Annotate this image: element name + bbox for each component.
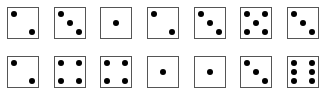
pip-icon (291, 78, 297, 84)
pip-icon (160, 69, 166, 75)
pip-icon (76, 60, 82, 66)
die-face-3 (54, 7, 86, 39)
pip-icon (244, 11, 250, 17)
die-face-3 (194, 7, 226, 39)
die-face-3 (240, 56, 272, 88)
pip-icon (76, 29, 82, 35)
die-face-3 (287, 7, 319, 39)
die-face-4 (100, 56, 132, 88)
pip-icon (198, 11, 204, 17)
pip-icon (309, 29, 315, 35)
pip-icon (244, 60, 250, 66)
pip-icon (291, 11, 297, 17)
pip-icon (262, 29, 268, 35)
pip-icon (76, 78, 82, 84)
pip-icon (11, 11, 17, 17)
pip-icon (262, 11, 268, 17)
pip-icon (244, 29, 250, 35)
pip-icon (216, 29, 222, 35)
pip-icon (309, 78, 315, 84)
pip-icon (151, 11, 157, 17)
pip-icon (309, 69, 315, 75)
die-face-1 (147, 56, 179, 88)
pip-icon (262, 78, 268, 84)
die-face-1 (100, 7, 132, 39)
pip-icon (29, 29, 35, 35)
die-face-2 (7, 7, 39, 39)
pip-icon (104, 60, 110, 66)
pip-icon (207, 69, 213, 75)
pip-icon (291, 60, 297, 66)
pip-icon (169, 29, 175, 35)
die-face-2 (7, 56, 39, 88)
pip-icon (253, 20, 259, 26)
die-face-6 (287, 56, 319, 88)
pip-icon (253, 69, 259, 75)
die-face-4 (54, 56, 86, 88)
pip-icon (29, 78, 35, 84)
pip-icon (58, 78, 64, 84)
die-face-5 (240, 7, 272, 39)
pip-icon (291, 69, 297, 75)
pip-icon (113, 20, 119, 26)
pip-icon (67, 20, 73, 26)
pip-icon (58, 11, 64, 17)
die-face-2 (147, 7, 179, 39)
pip-icon (309, 60, 315, 66)
pip-icon (207, 20, 213, 26)
pip-icon (300, 20, 306, 26)
pip-icon (58, 60, 64, 66)
pip-icon (122, 78, 128, 84)
pip-icon (11, 60, 17, 66)
pip-icon (104, 78, 110, 84)
pip-icon (122, 60, 128, 66)
die-face-1 (194, 56, 226, 88)
